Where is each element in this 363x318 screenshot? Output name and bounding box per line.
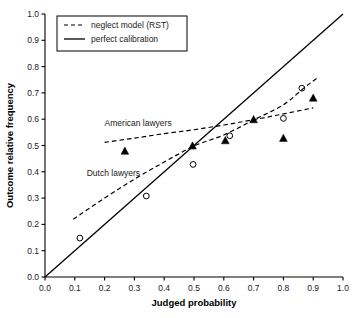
chart-canvas: 0.00.10.20.30.40.50.60.70.80.91.00.00.10… [0,0,363,318]
x-tick-label-0.5: 0.5 [188,283,200,293]
y-tick-label-0.7: 0.7 [27,88,39,98]
x-tick-label-0.6: 0.6 [218,283,230,293]
data-point-dutch-lawyers-4 [281,116,287,122]
data-point-dutch-lawyers-2 [190,162,196,168]
y-tick-label-0.9: 0.9 [27,35,39,45]
x-tick-label-0.3: 0.3 [128,283,140,293]
y-tick-label-0.8: 0.8 [27,62,39,72]
x-tick-label-0.9: 0.9 [307,283,319,293]
y-tick-label-0.1: 0.1 [27,246,39,256]
x-tick-label-0.0: 0.0 [39,283,51,293]
data-point-american-lawyers-4 [280,134,288,141]
x-tick-label-0.1: 0.1 [69,283,81,293]
x-tick-label-0.2: 0.2 [99,283,111,293]
annotation-american-lawyers: American lawyers [105,118,172,128]
x-tick-label-1.0: 1.0 [337,283,349,293]
y-tick-label-1.0: 1.0 [27,9,39,19]
y-tick-label-0.5: 0.5 [27,141,39,151]
y-tick-label-0.2: 0.2 [27,219,39,229]
x-tick-label-0.4: 0.4 [158,283,170,293]
y-tick-label-0.4: 0.4 [27,167,39,177]
y-tick-label-0.0: 0.0 [27,272,39,282]
calibration-chart-figure: 0.00.10.20.30.40.50.60.70.80.91.00.00.10… [0,0,363,318]
data-point-american-lawyers-0 [121,147,129,154]
annotation-dutch-lawyers: Dutch lawyers [87,168,140,178]
legend-label-neglect-model-rst: neglect model (RST) [91,20,169,30]
y-tick-label-0.6: 0.6 [27,114,39,124]
data-point-dutch-lawyers-1 [143,193,149,199]
data-point-dutch-lawyers-0 [77,235,83,241]
data-point-american-lawyers-5 [309,94,317,101]
legend-label-perfect-calibration: perfect calibration [91,34,158,44]
x-axis-title: Judged probability [152,297,238,308]
x-tick-label-0.7: 0.7 [248,283,260,293]
data-point-dutch-lawyers-3 [227,133,233,139]
y-tick-label-0.3: 0.3 [27,193,39,203]
y-axis-title: Outcome relative frequency [4,82,15,208]
x-tick-label-0.8: 0.8 [277,283,289,293]
